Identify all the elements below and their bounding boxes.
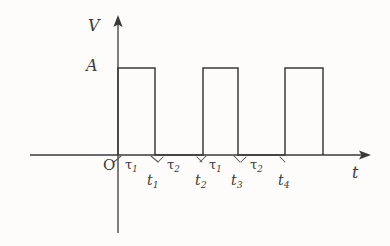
interval-label-tau2-b: τ2: [250, 158, 263, 171]
time-mark-subscript: 2: [201, 179, 207, 190]
v-axis-label: V: [88, 18, 100, 34]
origin-label: O: [103, 158, 115, 173]
time-mark-subscript: 4: [284, 179, 290, 190]
interval-label-tau1-a: τ1: [125, 158, 138, 171]
time-mark-base: t: [231, 172, 237, 188]
interval-label-tau2-a: τ2: [167, 158, 180, 171]
time-mark-base: t: [278, 172, 284, 188]
pulse-train-waveform: [118, 68, 323, 155]
time-mark-subscript: 1: [153, 179, 159, 190]
time-mark-label-t1: t1: [147, 173, 159, 187]
t-axis-label: t: [352, 165, 358, 181]
time-mark-label-t3: t3: [231, 173, 243, 187]
tau-subscript: 2: [174, 164, 179, 174]
tau-subscript: 1: [216, 164, 221, 174]
tau-subscript: 2: [257, 164, 262, 174]
time-mark-base: t: [195, 172, 201, 188]
tau-subscript: 1: [132, 164, 137, 174]
time-mark-label-t4: t4: [278, 173, 290, 187]
interval-label-tau1-b: τ1: [209, 158, 222, 171]
pulse-train-figure: V A O t τ1 τ2 τ1 τ2 t1 t2 t3 t4: [0, 0, 390, 246]
time-mark-subscript: 3: [237, 179, 243, 190]
time-mark-label-t2: t2: [195, 173, 207, 187]
amplitude-level-label: A: [86, 58, 98, 74]
time-mark-base: t: [147, 172, 153, 188]
figure-canvas: [0, 0, 390, 246]
